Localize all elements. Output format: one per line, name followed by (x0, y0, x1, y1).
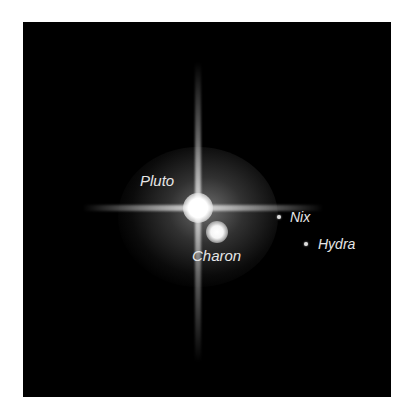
nix-label: Nix (290, 210, 310, 224)
astronomy-image: Pluto Charon Nix Hydra (23, 22, 391, 397)
charon-label: Charon (192, 248, 241, 263)
pluto-label: Pluto (140, 173, 174, 188)
hydra-body (304, 242, 308, 246)
pluto-body (183, 193, 213, 223)
hydra-label: Hydra (318, 237, 355, 251)
nix-body (277, 215, 281, 219)
charon-body (206, 221, 228, 243)
